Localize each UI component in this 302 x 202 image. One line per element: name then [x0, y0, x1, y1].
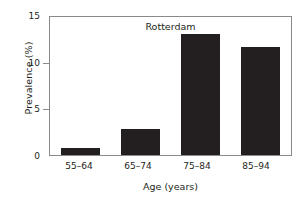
- x-axis-title: Age (years): [49, 181, 292, 192]
- x-tick-label-65-74: 65–74: [124, 161, 151, 171]
- bar-75-84: [181, 34, 220, 155]
- bar-65-74: [121, 129, 160, 155]
- x-tick-label-85-94: 85–94: [242, 161, 269, 171]
- y-tick-label-0: 0: [22, 152, 40, 161]
- bar-85-94: [241, 47, 280, 155]
- bar-55-64: [61, 148, 100, 155]
- y-tick-label-15: 15: [22, 12, 40, 21]
- bar-series: [50, 17, 291, 155]
- plot-area: Rotterdam: [49, 16, 292, 156]
- y-axis-title: Prevalence (%): [20, 0, 36, 156]
- x-tick-label-55-64: 55–64: [65, 161, 92, 171]
- bar-chart-figure: Prevalence (%) 15 10 5 0 Rotterdam 55–64…: [0, 0, 302, 202]
- y-tick-label-5: 5: [22, 105, 40, 114]
- x-tick-label-75-84: 75–84: [183, 161, 210, 171]
- y-tick-label-10: 10: [22, 58, 40, 67]
